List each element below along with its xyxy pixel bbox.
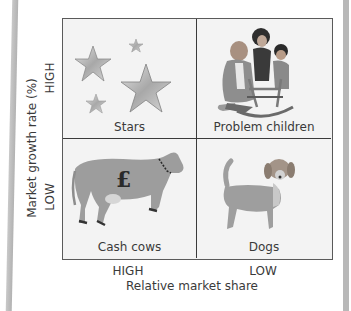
quadrant-label-stars: Stars bbox=[63, 120, 196, 134]
y-axis-title: Market growth rate (%) bbox=[25, 78, 39, 218]
quadrant-dogs: Dogs bbox=[197, 139, 331, 258]
x-axis-low-label: LOW bbox=[249, 264, 277, 278]
y-axis-high-label: HIGH bbox=[43, 63, 57, 94]
pound-symbol: £ bbox=[116, 166, 131, 192]
y-axis-low-label: LOW bbox=[43, 183, 57, 211]
x-axis-high-label: HIGH bbox=[113, 264, 144, 278]
quadrant-label-problem-children: Problem children bbox=[197, 120, 331, 134]
quadrant-label-dogs: Dogs bbox=[197, 240, 331, 254]
boston-matrix-grid: Stars Problem children bbox=[62, 18, 333, 260]
page-edge-right bbox=[343, 0, 349, 311]
page-edge-left bbox=[6, 0, 19, 311]
quadrant-stars: Stars bbox=[63, 19, 197, 139]
quadrant-cash-cows: £ Cash cows bbox=[63, 139, 197, 258]
quadrant-problem-children: Problem children bbox=[197, 19, 331, 139]
quadrant-label-cash-cows: Cash cows bbox=[63, 240, 196, 254]
x-axis-title: Relative market share bbox=[126, 279, 258, 293]
